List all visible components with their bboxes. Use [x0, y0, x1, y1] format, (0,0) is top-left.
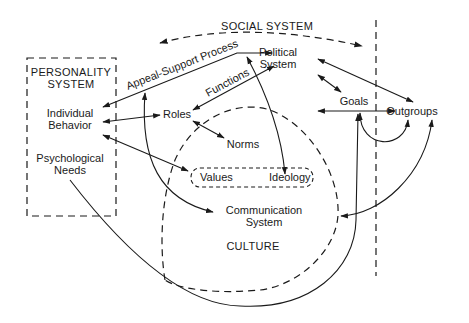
psychological-needs-label-1: Psychological [36, 152, 103, 164]
political-system-label-2: System [260, 58, 297, 70]
behavior-roles-arrow [103, 115, 160, 122]
ideology-label: Ideology [269, 171, 311, 183]
communication-system-label-2: System [246, 216, 283, 228]
needs-to-goals-arrow [70, 114, 358, 306]
culture-label: CULTURE [226, 240, 279, 252]
psychological-needs-label-2: Needs [54, 164, 86, 176]
political-system-label-1: Political [259, 46, 297, 58]
norms-label: Norms [227, 138, 260, 150]
outgroups-communication-arrow [341, 120, 432, 216]
roles-norms-arrow [193, 121, 224, 138]
social-system-label: SOCIAL SYSTEM [221, 20, 313, 32]
roles-label: Roles [163, 108, 192, 120]
personality-system-title-1: PERSONALITY [31, 66, 112, 78]
culture-circle [162, 107, 338, 291]
communication-system-label-1: Communication [226, 204, 302, 216]
goals-loop-arrow [360, 113, 408, 142]
goals-label: Goals [340, 95, 369, 107]
personality-system-title-2: SYSTEM [47, 78, 94, 90]
political-goals-arrow [318, 75, 341, 92]
political-ideology-arrow [247, 57, 285, 174]
individual-behavior-label-2: Behavior [48, 119, 92, 131]
values-label: Values [200, 171, 233, 183]
social-system-arc [160, 32, 362, 46]
individual-behavior-label-1: Individual [47, 107, 93, 119]
social-system-diagram: SOCIAL SYSTEM PERSONALITY SYSTEM Individ… [0, 0, 469, 323]
